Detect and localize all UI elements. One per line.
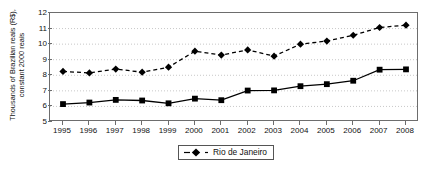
data-point-marker	[60, 101, 66, 107]
x-axis-tick-mark	[352, 121, 353, 125]
y-axis-title-text: Thousands of Brazilian reais (R$), const…	[8, 9, 27, 121]
series-line	[63, 25, 406, 73]
x-axis-tick-mark	[115, 121, 116, 125]
y-axis-tick-mark	[48, 28, 52, 29]
data-series	[59, 22, 409, 77]
y-axis-title: Thousands of Brazilian reais (R$), const…	[0, 0, 34, 130]
chart-legend: Rio de Janeiro	[178, 145, 274, 160]
x-axis-tick-mark	[273, 121, 274, 125]
data-point-marker	[166, 100, 172, 106]
data-point-marker	[350, 78, 356, 84]
data-point-marker	[86, 69, 93, 76]
data-point-marker	[139, 98, 145, 104]
x-axis-tick-mark	[194, 121, 195, 125]
legend-marker-icon	[184, 148, 210, 157]
data-point-marker	[323, 37, 330, 44]
y-axis-tick-label: 7	[33, 85, 47, 94]
y-axis-tick-label: 5	[33, 117, 47, 126]
x-axis-tick-mark	[141, 121, 142, 125]
data-point-marker	[271, 87, 277, 93]
data-point-marker	[245, 88, 251, 94]
data-point-marker	[377, 67, 383, 73]
data-point-marker	[297, 41, 304, 48]
data-point-marker	[86, 100, 92, 106]
x-axis-tick-labels: 1995199619971998199920002001200220032004…	[0, 126, 436, 140]
y-axis-tick-labels: 56789101112	[31, 12, 47, 121]
data-point-marker	[402, 22, 409, 29]
y-axis-tick-mark	[48, 59, 52, 60]
x-axis-tick-mark	[299, 121, 300, 125]
y-axis-tick-mark	[48, 74, 52, 75]
data-point-marker	[139, 69, 146, 76]
y-axis-tick-label: 6	[33, 101, 47, 110]
data-series	[60, 66, 409, 107]
data-point-marker	[112, 65, 119, 72]
data-point-marker	[376, 24, 383, 31]
data-point-marker	[270, 53, 277, 60]
x-axis-tick-mark	[168, 121, 169, 125]
y-axis-tick-mark	[48, 90, 52, 91]
data-point-marker	[218, 51, 225, 58]
x-axis-tick-mark	[379, 121, 380, 125]
y-axis-tick-mark	[48, 43, 52, 44]
data-point-marker	[165, 64, 172, 71]
data-point-marker	[59, 68, 66, 75]
data-point-marker	[324, 81, 330, 87]
data-point-marker	[191, 48, 198, 55]
x-axis-tick-mark	[62, 121, 63, 125]
x-axis-tick-mark	[220, 121, 221, 125]
x-axis-tick-label: 2008	[388, 126, 422, 135]
y-axis-title-line1: Thousands of Brazilian reais (R$),	[8, 9, 17, 121]
y-axis-tick-label: 9	[33, 54, 47, 63]
x-axis-tick-mark	[405, 121, 406, 125]
y-axis-tick-label: 10	[33, 39, 47, 48]
data-point-marker	[298, 83, 304, 89]
x-axis-tick-mark	[326, 121, 327, 125]
data-point-marker	[244, 46, 251, 53]
x-axis-tick-mark	[88, 121, 89, 125]
y-axis-tick-mark	[48, 121, 52, 122]
y-axis-tick-label: 11	[33, 23, 47, 32]
data-point-marker	[192, 96, 198, 102]
data-point-marker	[113, 97, 119, 103]
plot-area	[49, 12, 418, 121]
x-axis-tick-mark	[247, 121, 248, 125]
legend-label-rio-de-janeiro: Rio de Janeiro	[213, 148, 267, 156]
data-series-layer	[50, 13, 417, 120]
y-axis-title-line2: constant 2000 reais	[17, 9, 26, 121]
data-point-marker	[218, 97, 224, 103]
y-axis-tick-mark	[48, 105, 52, 106]
data-point-marker	[403, 66, 409, 72]
data-point-marker	[350, 32, 357, 39]
y-axis-tick-label: 8	[33, 70, 47, 79]
y-axis-tick-mark	[48, 12, 52, 13]
chart-figure: Thousands of Brazilian reais (R$), const…	[0, 0, 436, 170]
y-axis-tick-label: 12	[33, 8, 47, 17]
